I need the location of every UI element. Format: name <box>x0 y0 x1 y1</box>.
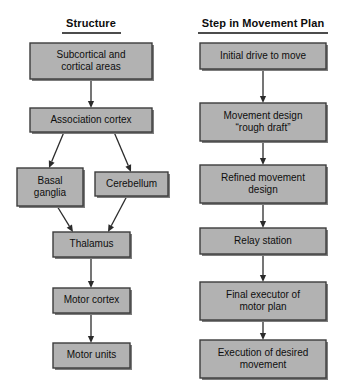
node-initialdrive[interactable]: Initial drive to move <box>200 43 328 71</box>
node-subcortical[interactable]: Subcortical andcortical areas <box>30 43 154 81</box>
node-label-line: Movement design <box>224 110 303 121</box>
column-header-structure: Structure <box>66 17 116 29</box>
arrowhead-icon <box>260 333 266 340</box>
edge-subcortical-to-association <box>88 79 94 108</box>
node-label-line: Subcortical and <box>57 49 126 60</box>
node-execution[interactable]: Execution of desiredmovement <box>200 340 328 380</box>
flowchart-diagram: StructureStep in Movement Plan Subcortic… <box>0 0 342 388</box>
edge-line <box>114 132 128 166</box>
flowchart-canvas: StructureStep in Movement Plan Subcortic… <box>0 0 342 388</box>
node-label-line: Thalamus <box>70 238 114 249</box>
node-association[interactable]: Association cortex <box>30 108 154 134</box>
arrowhead-icon <box>88 101 94 108</box>
edge-line <box>52 132 64 162</box>
node-label-line: design <box>248 184 277 195</box>
node-label-line: Motor units <box>67 349 116 360</box>
arrowhead-icon <box>88 281 94 288</box>
edge-motorcortex-to-motorunits <box>88 313 94 343</box>
edge-roughdraft-to-refined <box>260 141 266 165</box>
node-label-line: Relay station <box>234 235 292 246</box>
node-motorunits[interactable]: Motor units <box>53 343 132 370</box>
node-thalamus[interactable]: Thalamus <box>53 232 132 259</box>
node-label-line: Basal <box>37 175 62 186</box>
node-label-line: Motor cortex <box>64 294 120 305</box>
column-header-step: Step in Movement Plan <box>202 17 325 29</box>
node-basal[interactable]: Basalganglia <box>17 168 85 208</box>
node-label-line: Initial drive to move <box>220 50 307 61</box>
node-motorcortex[interactable]: Motor cortex <box>53 288 132 315</box>
node-label-line: movement <box>240 359 287 370</box>
edge-relay-to-finalexec <box>260 254 266 282</box>
column-headers-layer: StructureStep in Movement Plan <box>62 17 328 33</box>
node-finalexec[interactable]: Final executor ofmotor plan <box>200 282 328 322</box>
node-roughdraft[interactable]: Movement design“rough draft” <box>200 103 328 143</box>
node-label-line: Execution of desired <box>218 347 309 358</box>
node-relay[interactable]: Relay station <box>200 228 328 256</box>
edge-initialdrive-to-roughdraft <box>260 69 266 103</box>
node-label-line: Association cortex <box>50 114 131 125</box>
edge-association-to-cerebellum <box>114 132 131 172</box>
edge-thalamus-to-motorcortex <box>88 257 94 288</box>
node-refined[interactable]: Refined movementdesign <box>200 165 328 205</box>
edge-finalexec-to-execution <box>260 320 266 340</box>
arrowhead-icon <box>88 336 94 343</box>
edge-refined-to-relay <box>260 203 266 228</box>
edge-association-to-basal <box>49 132 64 168</box>
edge-cerebellum-to-thalamus <box>108 196 127 232</box>
node-label-line: Refined movement <box>221 172 305 183</box>
arrowhead-icon <box>260 158 266 165</box>
arrowhead-icon <box>260 96 266 103</box>
node-label-line: Cerebellum <box>106 178 157 189</box>
arrowhead-icon <box>67 224 73 232</box>
edge-basal-to-thalamus <box>57 206 73 232</box>
node-label-line: ganglia <box>34 187 67 198</box>
node-label-line: motor plan <box>239 301 286 312</box>
node-label-line: Final executor of <box>226 289 300 300</box>
edge-line <box>111 196 127 226</box>
arrowhead-icon <box>260 221 266 228</box>
node-label-line: “rough draft” <box>235 122 290 133</box>
nodes-layer: Subcortical andcortical areasAssociation… <box>17 43 328 380</box>
edge-line <box>57 206 69 226</box>
node-label-line: cortical areas <box>61 61 120 72</box>
node-cerebellum[interactable]: Cerebellum <box>95 172 170 198</box>
arrowhead-icon <box>260 275 266 282</box>
